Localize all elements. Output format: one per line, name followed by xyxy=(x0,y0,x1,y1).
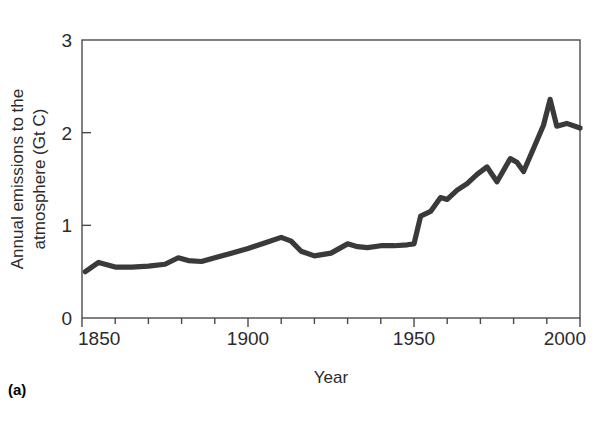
x-tick-label: 1900 xyxy=(227,328,269,349)
figure-background xyxy=(0,0,611,435)
y-axis-title-line1: Annual emissions to the xyxy=(8,89,27,270)
panel-letter-label: (a) xyxy=(8,381,26,398)
x-tick-label: 1950 xyxy=(393,328,435,349)
x-tick-label: 1850 xyxy=(78,328,120,349)
chart-svg: 1850190019502000 0123 Year Annual emissi… xyxy=(0,0,611,435)
figure-panel-a: 1850190019502000 0123 Year Annual emissi… xyxy=(0,0,611,435)
y-tick-label: 1 xyxy=(61,215,72,236)
y-tick-label: 0 xyxy=(61,308,72,329)
y-axis-title-line2: atmosphere (Gt C) xyxy=(30,109,49,250)
y-tick-label: 3 xyxy=(61,30,72,51)
x-tick-label: 2000 xyxy=(544,328,586,349)
x-axis-title: Year xyxy=(314,368,349,387)
y-tick-label: 2 xyxy=(61,123,72,144)
